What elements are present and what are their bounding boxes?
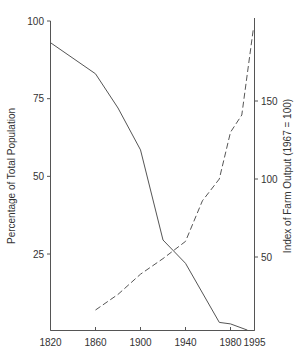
left-y-ticks: 255075100: [27, 16, 50, 260]
left-y-tick-label: 25: [33, 249, 45, 260]
left-y-axis-title: Percentage of Total Population: [6, 108, 17, 244]
left-y-tick-label: 50: [33, 171, 45, 182]
farm-output-line: [96, 28, 254, 310]
x-tick-label: 1940: [174, 337, 197, 348]
right-y-axis-title: Index of Farm Output (1967 = 100): [282, 99, 293, 253]
population-percentage-line: [51, 43, 248, 330]
left-y-tick-label: 75: [33, 93, 45, 104]
series: [51, 28, 254, 330]
x-tick-label: 1980: [219, 337, 242, 348]
x-tick-label: 1995: [243, 337, 266, 348]
left-y-tick-label: 100: [27, 16, 44, 27]
right-y-ticks: 50100150: [255, 96, 279, 263]
x-tick-label: 1820: [39, 337, 62, 348]
right-y-tick-label: 50: [261, 252, 273, 263]
axes: 182018601900194019801995 255075100 50100…: [27, 16, 278, 349]
x-tick-label: 1900: [129, 337, 152, 348]
right-y-tick-label: 150: [261, 96, 278, 107]
x-tick-label: 1860: [84, 337, 107, 348]
right-y-tick-label: 100: [261, 174, 278, 185]
line-chart: 182018601900194019801995 255075100 50100…: [0, 0, 304, 357]
